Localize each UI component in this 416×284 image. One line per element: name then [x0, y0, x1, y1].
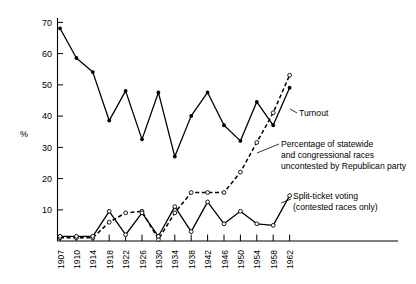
data-point — [124, 211, 128, 215]
x-tick-label-1962: 1962 — [285, 250, 295, 269]
data-point — [222, 123, 226, 127]
data-point — [58, 26, 62, 30]
annotation-uncontested-line3: uncontested by Republican party — [281, 161, 407, 171]
data-point — [239, 209, 243, 213]
data-point — [255, 222, 259, 226]
data-point — [107, 209, 111, 213]
series-1 — [58, 26, 291, 158]
data-point — [140, 137, 144, 141]
x-tick-label-1954: 1954 — [252, 250, 262, 269]
data-point — [107, 119, 111, 123]
annotation-turnout-label: Turnout — [299, 108, 329, 118]
data-point — [288, 73, 292, 77]
y-tick-label-20: 20 — [42, 174, 52, 184]
data-point — [271, 111, 275, 115]
data-point — [271, 223, 275, 227]
y-tick-label-30: 30 — [42, 143, 52, 153]
data-point — [271, 123, 275, 127]
chart-container: 70 60 50 40 30 20 10 % — [0, 0, 416, 284]
annotation-uncontested: Percentage of statewide and congressiona… — [257, 139, 407, 171]
uncontested-leader-line — [257, 144, 279, 153]
turnout-leader-line — [290, 109, 297, 113]
x-tick-label-1930: 1930 — [154, 250, 164, 269]
data-point — [189, 230, 193, 234]
x-tick-label-1942: 1942 — [203, 250, 213, 269]
annotation-split-ticket-line1: Split-ticket voting — [293, 191, 358, 201]
line-chart-figure: 70 60 50 40 30 20 10 % — [0, 0, 416, 284]
annotation-split-ticket-line2: (contested races only) — [293, 202, 378, 212]
y-tick-label-60: 60 — [42, 49, 52, 59]
data-point — [124, 233, 128, 237]
data-point — [107, 220, 111, 224]
x-tick-label-1910: 1910 — [72, 250, 82, 269]
y-tick-label-10: 10 — [42, 205, 52, 215]
y-tick-label-40: 40 — [42, 111, 52, 121]
y-ticks-group: 70 60 50 40 30 20 10 — [42, 18, 63, 216]
x-tick-label-1938: 1938 — [187, 250, 197, 269]
data-point — [173, 211, 177, 215]
data-point — [91, 234, 95, 238]
data-point — [206, 191, 210, 195]
x-tick-label-1926: 1926 — [138, 250, 148, 269]
data-point — [91, 70, 95, 74]
y-tick-label-50: 50 — [42, 80, 52, 90]
data-point — [173, 155, 177, 159]
series-line-1 — [60, 28, 290, 156]
x-tick-label-1922: 1922 — [121, 250, 131, 269]
annotation-uncontested-line2: and congressional races — [281, 150, 374, 160]
data-point — [206, 200, 210, 204]
x-tick-label-1907: 1907 — [56, 250, 66, 269]
y-tick-label-70: 70 — [42, 18, 52, 28]
data-point — [58, 234, 62, 238]
x-tick-label-1934: 1934 — [170, 250, 180, 269]
data-point — [288, 194, 292, 198]
annotation-turnout: Turnout — [290, 108, 329, 118]
data-point — [255, 141, 259, 145]
data-point — [189, 191, 193, 195]
data-point — [222, 222, 226, 226]
annotation-uncontested-line1: Percentage of statewide — [281, 139, 373, 149]
data-point — [206, 91, 210, 95]
x-tick-label-1918: 1918 — [105, 250, 115, 269]
data-point — [239, 139, 243, 143]
data-point — [173, 205, 177, 209]
data-point — [255, 100, 259, 104]
series-line-3 — [60, 196, 290, 237]
data-point — [75, 56, 79, 60]
data-point — [239, 170, 243, 174]
x-tick-labels-group: 1907 1910 1914 1918 1922 1926 1930 1934 … — [56, 250, 296, 269]
x-tick-label-1914: 1914 — [88, 250, 98, 269]
x-tick-label-1950: 1950 — [236, 250, 246, 269]
data-point — [124, 89, 128, 93]
x-tick-label-1946: 1946 — [220, 250, 230, 269]
annotation-split-ticket: Split-ticket voting (contested races onl… — [281, 191, 378, 212]
data-point — [75, 234, 79, 238]
data-point — [222, 191, 226, 195]
x-tick-label-1958: 1958 — [269, 250, 279, 269]
data-point — [288, 86, 292, 90]
series-3 — [58, 194, 291, 238]
series-layer — [58, 26, 291, 241]
y-axis-title: % — [20, 129, 28, 139]
data-point — [189, 114, 193, 118]
data-point — [157, 91, 161, 95]
data-point — [140, 211, 144, 215]
data-point — [157, 234, 161, 238]
